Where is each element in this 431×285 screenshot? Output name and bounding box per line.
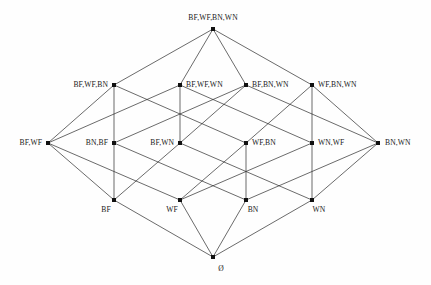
edge-top-to-wfbnwn <box>213 29 312 85</box>
node-marker-bnbf[interactable] <box>112 141 116 145</box>
node-marker-bfwfwn[interactable] <box>178 83 182 87</box>
node-label-wfbn: WF,BN <box>252 138 276 147</box>
edge-top-to-bfwfwn <box>180 29 213 85</box>
node-label-bf: BF <box>101 205 111 214</box>
edge-top-to-bfwfbn <box>114 29 213 85</box>
edge-bn-to-empty <box>213 200 246 257</box>
edge-bfwf-to-bf <box>48 143 114 200</box>
node-marker-wf[interactable] <box>178 198 182 202</box>
node-marker-wnwf[interactable] <box>310 141 314 145</box>
node-marker-bnwn[interactable] <box>376 141 380 145</box>
node-marker-bfbnwn[interactable] <box>244 83 248 87</box>
node-label-bfwfbn: BF,WF,BN <box>73 80 108 89</box>
lattice-diagram: BF,WF,BN,WNBF,WF,BNBF,WF,WNBF,BN,WNWF,BN… <box>0 0 431 285</box>
node-label-wf: WF <box>166 205 178 214</box>
edge-wfbnwn-to-bnwn <box>312 85 378 143</box>
edge-wfbn-to-wf <box>180 143 246 200</box>
edge-bfwfbn-to-bfwf <box>48 85 114 143</box>
node-label-bfwfwn: BF,WF,WN <box>186 80 223 89</box>
node-marker-bn[interactable] <box>244 198 248 202</box>
hasse-diagram-canvas: BF,WF,BN,WNBF,WF,BNBF,WF,WNBF,BN,WNWF,BN… <box>0 0 431 285</box>
node-marker-wfbn[interactable] <box>244 141 248 145</box>
node-marker-top[interactable] <box>211 27 215 31</box>
edge-bfwfwn-to-wnwf <box>180 85 312 143</box>
node-label-wn: WN <box>313 205 326 214</box>
node-label-bnbf: BN,BF <box>86 138 108 147</box>
edge-bnwn-to-wn <box>312 143 378 200</box>
node-label-bfwf: BF,WF <box>20 138 42 147</box>
node-label-empty: Ø <box>218 264 224 273</box>
node-marker-wfbnwn[interactable] <box>310 83 314 87</box>
node-label-wnwf: WN,WF <box>318 138 344 147</box>
node-marker-bfwfbn[interactable] <box>112 83 116 87</box>
node-label-bnwn: BN,WN <box>385 138 411 147</box>
node-label-bfwn: BF,WN <box>150 138 174 147</box>
node-marker-bf[interactable] <box>112 198 116 202</box>
node-marker-empty[interactable] <box>211 255 215 259</box>
edge-bf-to-empty <box>114 200 213 257</box>
labels-group: BF,WF,BN,WNBF,WF,BNBF,WF,WNBF,BN,WNWF,BN… <box>20 13 411 273</box>
node-marker-bfwf[interactable] <box>46 141 50 145</box>
edge-bnbf-to-bn <box>114 143 246 200</box>
edge-bfwn-to-bf <box>114 143 180 200</box>
node-marker-wn[interactable] <box>310 198 314 202</box>
node-marker-bfwn[interactable] <box>178 141 182 145</box>
edge-bfbnwn-to-bfwn <box>180 85 246 143</box>
edge-wf-to-empty <box>180 200 213 257</box>
node-label-bn: BN <box>248 205 259 214</box>
node-label-wfbnwn: WF,BN,WN <box>318 80 357 89</box>
node-label-top: BF,WF,BN,WN <box>188 13 238 22</box>
edge-wn-to-empty <box>213 200 312 257</box>
node-label-bfbnwn: BF,BN,WN <box>252 80 289 89</box>
edge-wfbnwn-to-wfbn <box>246 85 312 143</box>
edge-top-to-bfbnwn <box>213 29 246 85</box>
